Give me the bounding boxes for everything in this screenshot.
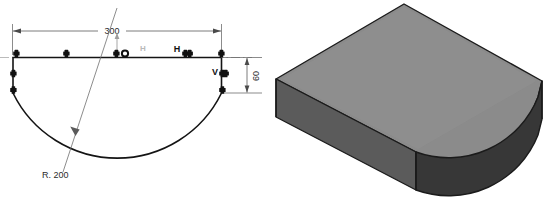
- horizontal-constraint-faint-icon[interactable]: H: [140, 44, 146, 53]
- sketch-point[interactable]: [218, 50, 224, 57]
- sketch-point[interactable]: [187, 50, 193, 57]
- sketch-point-group: [10, 50, 229, 94]
- arrowhead-right: [213, 29, 221, 34]
- radius-label[interactable]: R. 200: [42, 170, 69, 180]
- horizontal-constraint-icon[interactable]: H: [174, 44, 181, 54]
- sketch-pane: 300 60 R. 200: [0, 0, 275, 199]
- sketch-point[interactable]: [113, 50, 119, 57]
- dimension-60-label[interactable]: 60: [251, 71, 261, 81]
- arrowhead-left: [13, 29, 21, 34]
- leader-arrowhead: [70, 127, 79, 137]
- leader-line: [63, 8, 117, 172]
- sketch-point[interactable]: [10, 70, 16, 77]
- profile-outline[interactable]: [13, 58, 222, 159]
- figure-caption: [0, 190, 553, 199]
- sketch-point[interactable]: [13, 50, 19, 57]
- solid-preview[interactable]: [268, 0, 553, 199]
- sketch-point[interactable]: [63, 50, 69, 57]
- sketch-point[interactable]: [10, 86, 16, 93]
- arrowhead-top: [245, 58, 250, 65]
- sketch-drawing: 300 60 R. 200: [0, 0, 275, 199]
- vertical-constraint-icon[interactable]: V: [212, 67, 218, 77]
- arrowhead-bottom: [245, 86, 250, 93]
- figure-canvas: 300 60 R. 200: [0, 0, 553, 199]
- midpoint-marker[interactable]: [122, 50, 128, 56]
- sketch-point[interactable]: [219, 86, 225, 93]
- solid-pane: [268, 0, 553, 199]
